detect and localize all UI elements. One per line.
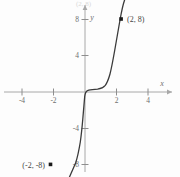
- x-tick-label-neg2: -2: [50, 96, 56, 105]
- point-marker-2-8: [119, 17, 123, 21]
- faint-top-artifact-label: (2, 8): [76, 0, 92, 8]
- point-label-neg2-neg8: (-2, -8): [22, 161, 45, 170]
- plot-canvas: (2, 8) -4 -2 2 4 8 4 -4 -8 x y (: [0, 0, 180, 177]
- x-tick-label-2: 2: [115, 96, 119, 105]
- point-label-2-8: (2, 8): [127, 15, 145, 24]
- y-tick-label-4: 4: [75, 51, 79, 60]
- point-marker-neg2-neg8: [49, 163, 53, 167]
- y-tick-label-8: 8: [75, 15, 79, 24]
- cubic-function-graph: (2, 8) -4 -2 2 4 8 4 -4 -8 x y (: [0, 0, 180, 177]
- x-tick-label-4: 4: [146, 96, 150, 105]
- x-tick-label-neg4: -4: [19, 96, 25, 105]
- x-axis-arrowhead: [167, 90, 172, 95]
- y-tick-label-neg4: -4: [73, 124, 79, 133]
- y-axis-label: y: [89, 13, 94, 22]
- x-axis-label: x: [159, 79, 164, 88]
